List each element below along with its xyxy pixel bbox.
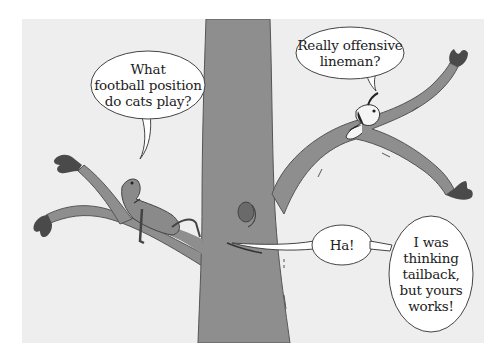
comic-panel: What football position do cats play? Rea… — [22, 19, 484, 343]
cat-speech-text: What football position do cats play? — [88, 61, 208, 109]
dog-speech-text: Really offensive lineman? — [292, 37, 408, 69]
left-branch — [33, 155, 214, 269]
knot-ha-text: Ha! — [317, 237, 367, 253]
knot-reply-text: I was thinking tailback, but yours works… — [391, 234, 471, 314]
